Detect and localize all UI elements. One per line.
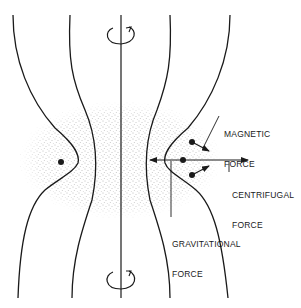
particle-left	[58, 159, 64, 165]
centrifugal-force-label: CENTRIFUGAL FORCE	[232, 170, 294, 240]
gravitational-force-label-line2: FORCE	[172, 269, 241, 279]
magnetic-force-label: MAGNETIC FORCE	[224, 109, 270, 179]
magnetic-force-label-line1: MAGNETIC	[224, 129, 270, 139]
gravitational-force-label-line1: GRAVITATIONAL	[172, 239, 241, 249]
gravitational-force-label: GRAVITATIONAL FORCE	[172, 219, 241, 289]
centrifugal-force-label-line1: CENTRIFUGAL	[232, 190, 294, 200]
centrifugal-force-label-line2: FORCE	[232, 220, 294, 230]
magnetic-force-label-line2: FORCE	[224, 159, 270, 169]
